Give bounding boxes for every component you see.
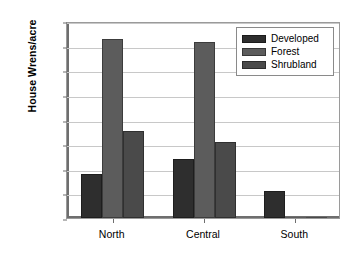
- legend-label-shrubland: Shrubland: [271, 58, 317, 71]
- y-tick-mark: [63, 195, 67, 196]
- legend-item: Shrubland: [242, 58, 328, 71]
- bar-chart: House Wrens/acre Developed Forest Shrubl…: [0, 0, 357, 256]
- chart-legend: Developed Forest Shrubland: [236, 27, 334, 76]
- y-tick-mark: [63, 72, 67, 73]
- bar-north-shrubland: [123, 131, 144, 218]
- y-tick-mark: [63, 220, 67, 221]
- y-tick-mark: [63, 170, 67, 171]
- bar-north-forest: [102, 39, 123, 218]
- y-tick-mark: [63, 146, 67, 147]
- bar-central-developed: [173, 159, 194, 218]
- gridline: [67, 23, 339, 24]
- x-axis-label-south: South: [249, 228, 339, 240]
- x-axis-label-north: North: [67, 228, 157, 240]
- legend-item: Developed: [242, 32, 328, 45]
- legend-label-developed: Developed: [271, 32, 319, 45]
- y-tick-mark: [63, 121, 67, 122]
- x-tick-mark: [295, 219, 296, 223]
- legend-swatch-forest: [242, 48, 266, 56]
- x-tick-mark: [204, 219, 205, 223]
- y-axis-title: House Wrens/acre: [26, 0, 38, 146]
- y-tick-mark: [63, 96, 67, 97]
- bar-north-developed: [81, 174, 102, 218]
- x-tick-mark: [113, 219, 114, 223]
- x-axis-label-central: Central: [158, 228, 248, 240]
- bar-central-shrubland: [215, 142, 236, 218]
- y-axis-line: [67, 23, 69, 218]
- bar-south-shrubland: [306, 217, 327, 218]
- legend-label-forest: Forest: [271, 45, 299, 58]
- legend-item: Forest: [242, 45, 328, 58]
- y-tick-mark: [63, 47, 67, 48]
- bar-south-forest: [285, 217, 306, 218]
- bar-central-forest: [194, 42, 215, 218]
- bar-south-developed: [264, 191, 285, 218]
- legend-swatch-shrubland: [242, 61, 266, 69]
- legend-swatch-developed: [242, 35, 266, 43]
- y-tick-mark: [63, 23, 67, 24]
